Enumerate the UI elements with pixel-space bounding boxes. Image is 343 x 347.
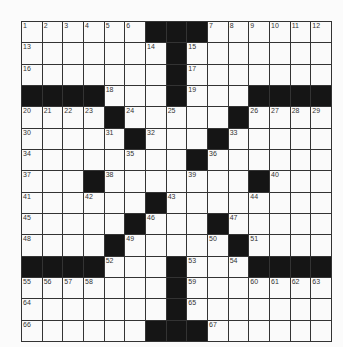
crossword-cell[interactable]: 59 bbox=[187, 278, 207, 298]
crossword-cell[interactable]: 37 bbox=[22, 171, 42, 191]
crossword-cell[interactable] bbox=[105, 193, 125, 213]
crossword-cell[interactable] bbox=[146, 235, 166, 255]
crossword-cell[interactable]: 29 bbox=[311, 107, 331, 127]
crossword-cell[interactable]: 58 bbox=[84, 278, 104, 298]
crossword-cell[interactable] bbox=[105, 214, 125, 234]
crossword-cell[interactable] bbox=[125, 321, 145, 341]
crossword-cell[interactable] bbox=[229, 299, 249, 319]
crossword-cell[interactable] bbox=[187, 107, 207, 127]
crossword-cell[interactable] bbox=[105, 321, 125, 341]
crossword-cell[interactable] bbox=[84, 235, 104, 255]
crossword-cell[interactable] bbox=[187, 193, 207, 213]
crossword-cell[interactable]: 39 bbox=[187, 171, 207, 191]
crossword-cell[interactable]: 28 bbox=[291, 107, 311, 127]
crossword-cell[interactable]: 67 bbox=[208, 321, 228, 341]
crossword-cell[interactable] bbox=[270, 150, 290, 170]
crossword-cell[interactable] bbox=[146, 171, 166, 191]
crossword-cell[interactable]: 53 bbox=[187, 257, 207, 277]
crossword-cell[interactable] bbox=[146, 86, 166, 106]
crossword-cell[interactable] bbox=[63, 43, 83, 63]
crossword-cell[interactable] bbox=[146, 107, 166, 127]
crossword-cell[interactable]: 3 bbox=[63, 22, 83, 42]
crossword-cell[interactable] bbox=[208, 107, 228, 127]
crossword-cell[interactable] bbox=[167, 214, 187, 234]
crossword-cell[interactable]: 65 bbox=[187, 299, 207, 319]
crossword-cell[interactable] bbox=[63, 150, 83, 170]
crossword-cell[interactable] bbox=[63, 299, 83, 319]
crossword-cell[interactable]: 5 bbox=[105, 22, 125, 42]
crossword-cell[interactable] bbox=[105, 278, 125, 298]
crossword-cell[interactable]: 23 bbox=[84, 107, 104, 127]
crossword-cell[interactable] bbox=[208, 278, 228, 298]
crossword-cell[interactable] bbox=[291, 43, 311, 63]
crossword-cell[interactable]: 14 bbox=[146, 43, 166, 63]
crossword-cell[interactable] bbox=[229, 65, 249, 85]
crossword-cell[interactable]: 15 bbox=[187, 43, 207, 63]
crossword-cell[interactable] bbox=[43, 235, 63, 255]
crossword-cell[interactable] bbox=[125, 43, 145, 63]
crossword-cell[interactable]: 35 bbox=[125, 150, 145, 170]
crossword-cell[interactable] bbox=[270, 299, 290, 319]
crossword-cell[interactable] bbox=[270, 193, 290, 213]
crossword-cell[interactable]: 27 bbox=[270, 107, 290, 127]
crossword-cell[interactable]: 2 bbox=[43, 22, 63, 42]
crossword-cell[interactable] bbox=[311, 150, 331, 170]
crossword-cell[interactable] bbox=[208, 257, 228, 277]
crossword-cell[interactable] bbox=[63, 171, 83, 191]
crossword-cell[interactable] bbox=[249, 299, 269, 319]
crossword-cell[interactable]: 30 bbox=[22, 129, 42, 149]
crossword-cell[interactable]: 12 bbox=[311, 22, 331, 42]
crossword-cell[interactable]: 64 bbox=[22, 299, 42, 319]
crossword-cell[interactable] bbox=[84, 321, 104, 341]
crossword-cell[interactable]: 52 bbox=[105, 257, 125, 277]
crossword-cell[interactable] bbox=[125, 193, 145, 213]
crossword-cell[interactable] bbox=[229, 86, 249, 106]
crossword-cell[interactable] bbox=[187, 235, 207, 255]
crossword-cell[interactable]: 54 bbox=[229, 257, 249, 277]
crossword-cell[interactable]: 17 bbox=[187, 65, 207, 85]
crossword-cell[interactable]: 62 bbox=[291, 278, 311, 298]
crossword-cell[interactable] bbox=[43, 299, 63, 319]
crossword-cell[interactable] bbox=[270, 43, 290, 63]
crossword-cell[interactable] bbox=[43, 150, 63, 170]
crossword-cell[interactable]: 21 bbox=[43, 107, 63, 127]
crossword-cell[interactable] bbox=[146, 150, 166, 170]
crossword-cell[interactable]: 61 bbox=[270, 278, 290, 298]
crossword-cell[interactable] bbox=[229, 171, 249, 191]
crossword-cell[interactable]: 18 bbox=[105, 86, 125, 106]
crossword-cell[interactable] bbox=[84, 43, 104, 63]
crossword-cell[interactable] bbox=[63, 321, 83, 341]
crossword-cell[interactable] bbox=[229, 193, 249, 213]
crossword-cell[interactable]: 31 bbox=[105, 129, 125, 149]
crossword-cell[interactable]: 38 bbox=[105, 171, 125, 191]
crossword-cell[interactable] bbox=[187, 214, 207, 234]
crossword-cell[interactable] bbox=[84, 214, 104, 234]
crossword-cell[interactable]: 51 bbox=[249, 235, 269, 255]
crossword-cell[interactable]: 41 bbox=[22, 193, 42, 213]
crossword-cell[interactable] bbox=[105, 299, 125, 319]
crossword-cell[interactable] bbox=[146, 257, 166, 277]
crossword-cell[interactable] bbox=[270, 321, 290, 341]
crossword-cell[interactable] bbox=[84, 129, 104, 149]
crossword-cell[interactable] bbox=[311, 321, 331, 341]
crossword-cell[interactable] bbox=[311, 299, 331, 319]
crossword-cell[interactable] bbox=[125, 278, 145, 298]
crossword-cell[interactable] bbox=[84, 150, 104, 170]
crossword-cell[interactable] bbox=[249, 129, 269, 149]
crossword-cell[interactable] bbox=[311, 43, 331, 63]
crossword-cell[interactable]: 1 bbox=[22, 22, 42, 42]
crossword-cell[interactable]: 8 bbox=[229, 22, 249, 42]
crossword-cell[interactable] bbox=[105, 43, 125, 63]
crossword-cell[interactable]: 44 bbox=[249, 193, 269, 213]
crossword-cell[interactable] bbox=[270, 65, 290, 85]
crossword-cell[interactable] bbox=[229, 150, 249, 170]
crossword-cell[interactable]: 26 bbox=[249, 107, 269, 127]
crossword-cell[interactable] bbox=[291, 299, 311, 319]
crossword-cell[interactable] bbox=[249, 214, 269, 234]
crossword-cell[interactable] bbox=[311, 214, 331, 234]
crossword-cell[interactable] bbox=[311, 171, 331, 191]
crossword-cell[interactable]: 45 bbox=[22, 214, 42, 234]
crossword-cell[interactable]: 13 bbox=[22, 43, 42, 63]
crossword-cell[interactable] bbox=[291, 235, 311, 255]
crossword-cell[interactable] bbox=[208, 193, 228, 213]
